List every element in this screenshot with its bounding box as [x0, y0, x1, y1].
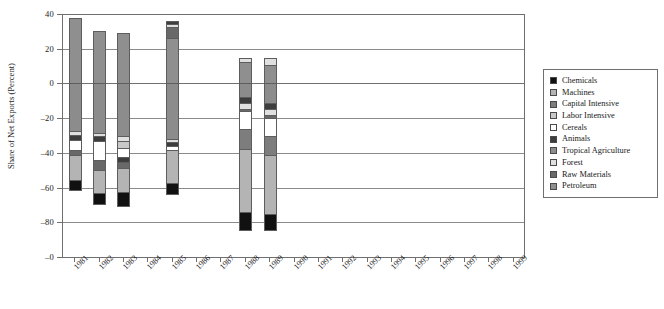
bar-segment-1982-tropical-agriculture [93, 83, 106, 132]
bar-segment-1981-petroleum [69, 18, 82, 83]
bar-segment-1981-tropical-agriculture [69, 83, 82, 131]
gridline--80 [63, 222, 524, 223]
bar-segment-1988-petroleum [239, 62, 252, 84]
legend-label: Petroleum [562, 180, 596, 192]
plot-area [62, 14, 525, 257]
bar-segment-1988-forest [239, 58, 252, 61]
legend-swatch-icon [550, 124, 557, 131]
gridline--60 [63, 188, 524, 189]
bar-segment-1989-machines [264, 155, 277, 213]
bar-segment-1982-raw-materials [93, 160, 106, 170]
bar-segment-1989-forest [264, 58, 277, 65]
bar-segment-1989-capital-intensive [264, 136, 277, 156]
plot-top-border [63, 14, 524, 15]
legend-swatch-icon [550, 89, 557, 96]
legend-item-machines[interactable]: Machines [550, 87, 651, 99]
bar-segment-1985-animals [166, 21, 179, 24]
bar-segment-1989-petroleum [264, 65, 277, 83]
y-tick-label: 0 [18, 78, 54, 88]
bar-segment-1989-tropical-agriculture [264, 83, 277, 103]
legend-swatch-icon [550, 136, 557, 143]
legend-swatch-icon [550, 183, 557, 190]
legend-swatch-icon [550, 101, 557, 108]
y-tick-label: –80 [18, 217, 54, 227]
bar-1988[interactable] [239, 14, 252, 257]
legend-item-chemicals[interactable]: Chemicals [550, 75, 651, 87]
bar-segment-1981-cereals [69, 140, 82, 150]
bar-segment-1983-labor-intensive [117, 141, 130, 148]
bar-segment-1982-chemicals [93, 193, 106, 205]
legend-swatch-icon [550, 112, 557, 119]
bar-segment-1981-chemicals [69, 180, 82, 191]
legend-swatch-icon [550, 171, 557, 178]
bar-segment-1981-machines [69, 155, 82, 180]
bar-segment-1985-forest [166, 24, 179, 27]
legend-label: Chemicals [562, 75, 597, 87]
legend-label: Capital Intensive [562, 98, 619, 110]
gridline-20 [63, 49, 524, 50]
bar-segment-1985-raw-materials [166, 27, 179, 38]
gridline--20 [63, 118, 524, 119]
bar-segment-1988-tropical-agriculture [239, 83, 252, 97]
bar-1985[interactable] [166, 14, 179, 257]
legend-swatch-icon [550, 77, 557, 84]
legend-label: Labor Intensive [562, 110, 615, 122]
legend-label: Tropical Agriculture [562, 145, 630, 157]
bar-segment-1985-machines [166, 150, 179, 183]
bar-segment-1982-petroleum [93, 31, 106, 83]
legend-item-capital-intensive[interactable]: Capital Intensive [550, 98, 651, 110]
bar-segment-1988-cereals [239, 111, 252, 129]
legend-label: Forest [562, 157, 583, 169]
y-tick-label: –20 [18, 113, 54, 123]
bar-1981[interactable] [69, 14, 82, 257]
y-tick-label: 20 [18, 44, 54, 54]
bar-segment-1985-petroleum [166, 38, 179, 83]
bar-segment-1989-chemicals [264, 214, 277, 231]
legend-item-animals[interactable]: Animals [550, 133, 651, 145]
y-axis-title: Share of Net Exports (Percent) [6, 0, 16, 234]
bar-segment-1988-machines [239, 149, 252, 211]
bar-1989[interactable] [264, 14, 277, 257]
legend-item-labor-intensive[interactable]: Labor Intensive [550, 110, 651, 122]
bar-segment-1985-chemicals [166, 183, 179, 194]
bar-segment-1988-capital-intensive [239, 129, 252, 149]
legend: ChemicalsMachinesCapital IntensiveLabor … [543, 69, 658, 198]
bar-segment-1982-cereals [93, 141, 106, 160]
bar-segment-1983-machines [117, 168, 130, 192]
legend-item-cereals[interactable]: Cereals [550, 122, 651, 134]
bar-1982[interactable] [93, 14, 106, 257]
bar-segment-1983-petroleum [117, 33, 130, 83]
bar-segment-1982-machines [93, 170, 106, 193]
legend-swatch-icon [550, 147, 557, 154]
legend-item-tropical-agriculture[interactable]: Tropical Agriculture [550, 145, 651, 157]
legend-label: Animals [562, 133, 590, 145]
gridline--40 [63, 153, 524, 154]
bar-segment-1983-chemicals [117, 192, 130, 207]
legend-item-forest[interactable]: Forest [550, 157, 651, 169]
legend-label: Raw Materials [562, 169, 611, 181]
gridline-0 [63, 83, 524, 84]
bar-segment-1983-tropical-agriculture [117, 83, 130, 136]
legend-item-petroleum[interactable]: Petroleum [550, 180, 651, 192]
bar-segment-1988-chemicals [239, 212, 252, 231]
legend-swatch-icon [550, 159, 557, 166]
legend-item-raw-materials[interactable]: Raw Materials [550, 169, 651, 181]
legend-label: Cereals [562, 122, 587, 134]
y-tick-label: 40 [18, 9, 54, 19]
bar-segment-1985-tropical-agriculture [166, 83, 179, 139]
bar-1983[interactable] [117, 14, 130, 257]
y-tick-label: –60 [18, 183, 54, 193]
stacked-bar-chart: Share of Net Exports (Percent) 40200–20–… [0, 0, 664, 309]
bar-segment-1989-cereals [264, 118, 277, 135]
y-tick-label: –0 [18, 252, 54, 262]
legend-label: Machines [562, 87, 595, 99]
y-tick-label: –40 [18, 148, 54, 158]
bar-segment-1983-cereals [117, 148, 130, 158]
